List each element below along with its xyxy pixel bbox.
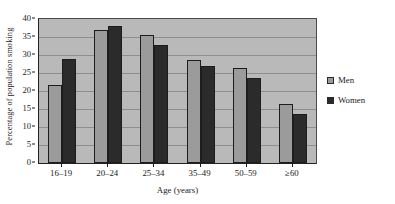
legend-swatch-icon [327, 97, 334, 104]
y-tick-mark [32, 72, 35, 73]
bar-women [247, 78, 261, 163]
legend-item-men[interactable]: Men [327, 76, 393, 85]
y-tick-mark [32, 54, 35, 55]
y-tick-mark [32, 108, 35, 109]
x-tick-label: 50–59 [235, 169, 257, 178]
y-tick-label: 10 [22, 122, 31, 131]
bar-women [154, 45, 168, 163]
y-tick-mark [32, 36, 35, 37]
y-tick-label: 5 [27, 140, 31, 149]
bar-group [233, 19, 261, 163]
bar-men [233, 68, 247, 163]
bar-chart-figure: Percentage of population smoking 0510152… [0, 0, 395, 204]
y-tick-mark [32, 90, 35, 91]
x-tick-mark [200, 163, 201, 167]
y-tick-mark [32, 144, 35, 145]
bar-women [62, 59, 76, 163]
x-tick-label: ≥60 [285, 169, 299, 178]
y-axis-ticks: 0510152025303540 [18, 18, 35, 162]
legend-item-women[interactable]: Women [327, 96, 393, 105]
y-tick-label: 40 [22, 14, 31, 23]
bar-women [201, 66, 215, 163]
y-tick-label: 15 [22, 104, 31, 113]
y-tick-label: 30 [22, 50, 31, 59]
bar-groups [39, 19, 316, 163]
plot-area [38, 18, 317, 164]
bar-women [293, 114, 307, 163]
x-tick-label: 16–19 [50, 169, 72, 178]
legend-swatch-icon [327, 77, 334, 84]
x-axis-title: Age (years) [38, 185, 317, 195]
y-tick-label: 20 [22, 86, 31, 95]
bar-men [279, 104, 293, 163]
bar-men [187, 60, 201, 163]
bar-men [94, 30, 108, 163]
y-tick-mark [32, 18, 35, 19]
y-tick-mark [32, 162, 35, 163]
legend-label: Women [338, 96, 365, 105]
bar-group [187, 19, 215, 163]
y-axis-title: Percentage of population smoking [2, 0, 18, 172]
x-axis-ticks: 16–1920–2425–3435–4950–59≥60 [38, 163, 317, 185]
x-tick-mark [107, 163, 108, 167]
x-tick-mark [246, 163, 247, 167]
bar-women [108, 26, 122, 163]
y-tick-label: 0 [27, 158, 31, 167]
bar-group [94, 19, 122, 163]
bar-group [140, 19, 168, 163]
bar-men [140, 35, 154, 163]
x-tick-mark [153, 163, 154, 167]
y-axis-title-text: Percentage of population smoking [6, 27, 15, 145]
x-tick-label: 35–49 [189, 169, 211, 178]
y-tick-label: 35 [22, 32, 31, 41]
x-tick-label: 25–34 [142, 169, 164, 178]
x-tick-mark [292, 163, 293, 167]
x-tick-label: 20–24 [96, 169, 118, 178]
bar-men [48, 85, 62, 163]
y-tick-mark [32, 126, 35, 127]
legend-label: Men [338, 76, 354, 85]
bar-group [48, 19, 76, 163]
bar-group [279, 19, 307, 163]
x-tick-mark [61, 163, 62, 167]
chart-legend: MenWomen [327, 76, 393, 116]
y-tick-label: 25 [22, 68, 31, 77]
